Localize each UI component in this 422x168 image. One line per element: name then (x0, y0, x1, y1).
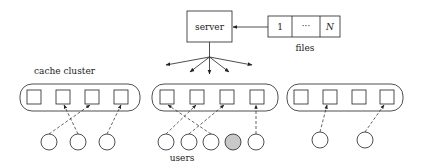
cluster-middle: users (152, 84, 278, 163)
files-array: 1 ··· N files (268, 16, 340, 53)
file-cell-last: N (325, 22, 335, 32)
user-node (70, 134, 86, 150)
file-cell-first: 1 (277, 22, 283, 32)
server-node: server (187, 11, 232, 42)
cache-node (294, 90, 308, 104)
cache-node (220, 90, 234, 104)
cache-node (114, 90, 128, 104)
files-label: files (296, 43, 315, 53)
user-node (41, 134, 57, 150)
cache-node (190, 90, 204, 104)
users-label: users (170, 153, 195, 163)
cache-node (27, 90, 41, 104)
cache-node (56, 90, 70, 104)
cache-cluster-label: cache cluster (34, 66, 96, 76)
user-node (312, 132, 328, 148)
cluster-right (287, 84, 403, 148)
cache-node (380, 90, 394, 104)
server-label: server (195, 22, 225, 32)
file-cell-ellipsis: ··· (302, 21, 311, 31)
user-node (248, 134, 264, 150)
user-node (181, 134, 197, 150)
cache-node (352, 90, 366, 104)
cache-cluster-diagram: server 1 ··· N files cache cluster (0, 0, 422, 168)
user-node (99, 134, 115, 150)
user-node (203, 134, 219, 150)
cluster-left (20, 84, 140, 150)
user-node-highlighted (225, 134, 241, 150)
cache-node (250, 90, 264, 104)
user-node (158, 134, 174, 150)
cache-node (85, 90, 99, 104)
user-node (357, 132, 373, 148)
cache-node (160, 90, 174, 104)
cache-node (323, 90, 337, 104)
server-fanout-arrows (166, 42, 252, 74)
